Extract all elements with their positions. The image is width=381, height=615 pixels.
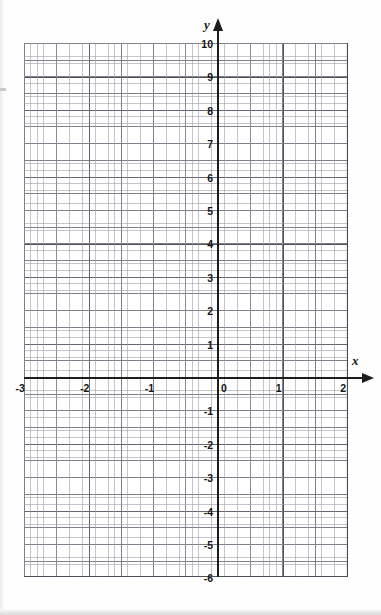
y-tick-label: 10 [189, 39, 213, 50]
y-tick-label: 1 [189, 340, 213, 351]
x-tick-label: 2 [332, 383, 354, 394]
scan-artifact [0, 88, 6, 91]
y-tick-label: 2 [189, 306, 213, 317]
x-tick-label: 0 [213, 383, 235, 394]
y-tick-label: 7 [189, 139, 213, 150]
y-tick-label: 5 [189, 206, 213, 217]
y-tick-label: -5 [189, 540, 213, 551]
y-tick-label: 4 [189, 239, 213, 250]
scan-edge-left [0, 0, 4, 615]
y-tick-label: -6 [189, 573, 213, 584]
y-axis-line [217, 28, 219, 577]
y-tick-label: 8 [189, 106, 213, 117]
y-tick-label: -4 [189, 507, 213, 518]
scan-edge-bottom [0, 609, 381, 615]
y-tick-label: 9 [189, 72, 213, 83]
x-axis-label: x [352, 354, 359, 367]
x-tick-label: 1 [268, 383, 290, 394]
x-tick-label: -3 [9, 383, 31, 394]
grid-plot-area [24, 43, 348, 577]
y-tick-label: -2 [189, 440, 213, 451]
y-tick-label: -1 [189, 406, 213, 417]
x-axis-arrowhead-icon [362, 373, 374, 383]
y-axis-arrowhead-icon [213, 18, 223, 31]
y-axis-label: y [204, 18, 210, 31]
y-tick-label: -3 [189, 473, 213, 484]
graph-paper-page: y x 10987654321-1-2-3-4-5-6 -3-2-1012 [0, 0, 381, 615]
y-tick-label: 3 [189, 273, 213, 284]
x-tick-label: -2 [74, 383, 96, 394]
x-tick-label: -1 [138, 383, 160, 394]
x-axis-line [24, 377, 365, 379]
y-tick-label: 6 [189, 173, 213, 184]
